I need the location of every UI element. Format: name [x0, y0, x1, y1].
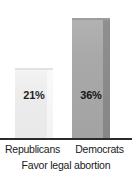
bar-republicans-top-edge	[15, 68, 53, 70]
value-label-republicans: 21%	[15, 89, 53, 101]
bar-republicans	[15, 68, 53, 139]
bar-republicans-side-face	[47, 68, 53, 139]
chart-caption: Favor legal abortion	[0, 158, 132, 172]
value-label-democrats: 36%	[72, 89, 110, 101]
axis-baseline	[0, 138, 132, 140]
bar-democrats	[72, 18, 110, 139]
category-label-row: Republicans Democrats	[0, 142, 132, 156]
bar-democrats-top-edge	[72, 18, 110, 20]
plot-area: 21% 36%	[0, 0, 132, 139]
bar-chart: 21% 36% Republicans Democrats Favor lega…	[0, 0, 132, 174]
category-label-republicans: Republicans	[0, 142, 66, 156]
category-label-democrats: Democrats	[66, 142, 132, 156]
bar-democrats-side-face	[103, 18, 110, 139]
